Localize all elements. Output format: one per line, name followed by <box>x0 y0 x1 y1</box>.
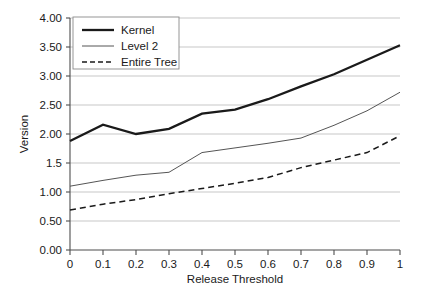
legend-label: Level 2 <box>121 40 158 52</box>
x-tick-label: 0.2 <box>128 258 144 270</box>
y-tick-label: 2.00 <box>40 128 62 140</box>
y-axis-tickmarks <box>66 18 70 250</box>
chart-canvas: 0.000.501.001.52.002.503.003.504.00 00.1… <box>0 0 427 289</box>
x-tick-label: 0.4 <box>194 258 211 270</box>
x-tick-label: 0.8 <box>326 258 342 270</box>
y-tick-label: 4.00 <box>40 12 62 24</box>
x-tick-label: 0.1 <box>95 258 111 270</box>
y-tick-label: 3.50 <box>40 41 62 53</box>
legend-label: Entire Tree <box>121 56 177 68</box>
x-tick-label: 0 <box>67 258 73 270</box>
chart-legend: KernelLevel 2Entire Tree <box>73 17 179 69</box>
line-chart: 0.000.501.001.52.002.503.003.504.00 00.1… <box>0 0 427 289</box>
x-axis-tickmarks <box>70 250 400 255</box>
y-axis-tick-labels: 0.000.501.001.52.002.503.003.504.00 <box>40 12 62 256</box>
y-tick-label: 0.50 <box>40 215 62 227</box>
x-axis-title: Release Threshold <box>187 273 283 285</box>
y-tick-label: 1.5 <box>46 157 62 169</box>
x-tick-label: 0.6 <box>260 258 276 270</box>
series-group <box>70 45 400 210</box>
series-line-entire-tree <box>70 136 400 210</box>
y-tick-label: 3.00 <box>40 70 62 82</box>
x-tick-label: 0.3 <box>161 258 177 270</box>
x-tick-label: 1 <box>397 258 403 270</box>
y-tick-label: 2.50 <box>40 99 62 111</box>
x-tick-label: 0.9 <box>359 258 375 270</box>
x-tick-label: 0.7 <box>293 258 309 270</box>
y-tick-label: 1.00 <box>40 186 62 198</box>
series-line-level-2 <box>70 92 400 186</box>
legend-label: Kernel <box>121 24 154 36</box>
y-tick-label: 0.00 <box>40 244 62 256</box>
y-axis-title: Version <box>18 115 30 153</box>
x-axis-tick-labels: 00.10.20.30.40.50.60.70.80.91 <box>67 258 403 270</box>
x-tick-label: 0.5 <box>227 258 243 270</box>
